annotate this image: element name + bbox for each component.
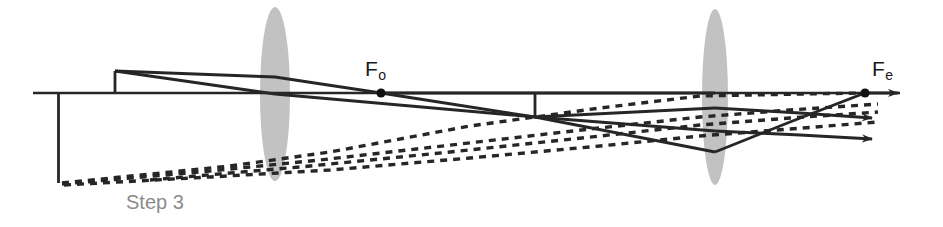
objective-focal-point-dot bbox=[376, 88, 385, 97]
focal-label-subscript: e bbox=[885, 67, 893, 83]
exit-ray-lower bbox=[715, 131, 872, 139]
focal-label-base: F bbox=[872, 57, 885, 80]
focal-label-subscript: o bbox=[378, 67, 386, 83]
ray-diagram-figure: Fo Fe Step 3 bbox=[0, 0, 943, 227]
eyepiece-focal-point-dot bbox=[860, 88, 869, 97]
ray-to-eyepiece-upper bbox=[535, 108, 715, 117]
objective-focal-point-label: Fo bbox=[365, 58, 386, 79]
eyepiece-focal-point-label: Fe bbox=[872, 58, 893, 79]
focal-label-base: F bbox=[365, 57, 378, 80]
lens-group bbox=[260, 7, 728, 185]
virtual-ray-extension bbox=[150, 112, 878, 180]
virtual-ray-lower bbox=[64, 122, 878, 185]
ray-through-objective-centre bbox=[115, 71, 715, 131]
virtual-ray-middle bbox=[62, 104, 878, 184]
step-caption: Step 3 bbox=[126, 192, 184, 212]
